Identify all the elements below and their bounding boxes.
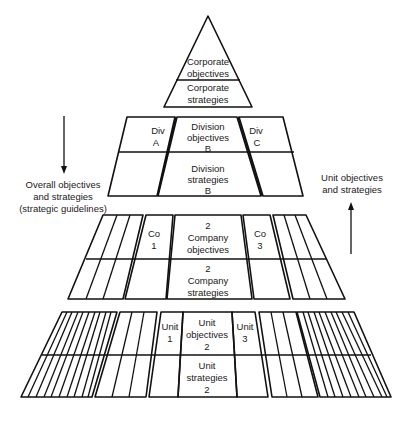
- left-annotation-line3: (strategic guidelines): [4, 203, 122, 215]
- corporate-strategies-line2: strategies: [187, 94, 228, 105]
- division-strategies-line1: Division: [191, 163, 224, 174]
- corporate-objectives-line2: objectives: [187, 68, 229, 79]
- co-1-line2: 1: [151, 240, 156, 251]
- corporate-strategies-line1: Corporate: [187, 82, 229, 93]
- unit-3-line1: Unit: [237, 321, 254, 332]
- left-annotation-line2: and strategies: [4, 191, 122, 203]
- unit-objectives-line3: 2: [204, 341, 209, 352]
- unit-1-line2: 1: [167, 333, 172, 344]
- division-objectives-line3: B: [205, 143, 211, 154]
- division-objectives-line1: Division: [191, 121, 224, 132]
- company-objectives-line1: 2: [205, 220, 210, 231]
- co-3-line2: 3: [257, 240, 262, 251]
- div-c-line2: C: [254, 137, 261, 148]
- up-arrow-icon: [348, 202, 354, 254]
- company-strategies-line1: 2: [205, 263, 210, 274]
- tier-unit: Unit 1 Unit objectives 2 Unit 3 Unit str…: [21, 312, 391, 397]
- div-a-line1: Div: [151, 125, 165, 136]
- unit-strategies-line3: 2: [204, 384, 209, 395]
- unit-objectives-line2: objectives: [186, 329, 228, 340]
- div-c-line1: Div: [249, 125, 263, 136]
- tier-corporate: Corporate objectives Corporate strategie…: [164, 16, 252, 107]
- tier-company: Co 1 2 Company objectives Co 3 2 Company…: [68, 215, 345, 299]
- unit-1-line1: Unit: [162, 321, 179, 332]
- division-objectives-line2: objectives: [187, 132, 229, 143]
- unit-strategies-line1: Unit: [199, 360, 216, 371]
- company-strategies-line2: Company: [188, 275, 229, 286]
- company-objectives-line3: objectives: [187, 244, 229, 255]
- corporate-objectives-line1: Corporate: [187, 56, 229, 67]
- right-annotation: Unit objectives and strategies: [310, 172, 394, 196]
- division-strategies-line3: B: [205, 185, 211, 196]
- co-3-line1: Co: [254, 228, 266, 239]
- company-strategies-line3: strategies: [187, 287, 228, 298]
- left-annotation: Overall objectives and strategies (strat…: [4, 179, 122, 215]
- unit-objectives-line1: Unit: [199, 317, 216, 328]
- co-1-line1: Co: [148, 228, 160, 239]
- company-objectives-line2: Company: [188, 232, 229, 243]
- unit-3-line2: 3: [242, 333, 247, 344]
- down-arrow-icon: [61, 116, 67, 174]
- unit-strategies-line2: strategies: [186, 372, 227, 383]
- division-strategies-line2: strategies: [187, 174, 228, 185]
- right-annotation-line2: and strategies: [310, 184, 394, 196]
- right-annotation-line1: Unit objectives: [310, 172, 394, 184]
- tier-division: Div A Division objectives B Div C Divisi…: [108, 117, 303, 196]
- left-annotation-line1: Overall objectives: [4, 179, 122, 191]
- div-a-line2: A: [153, 137, 160, 148]
